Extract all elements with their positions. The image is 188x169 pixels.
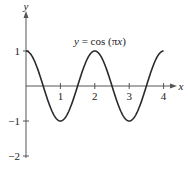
x-axis-arrow-icon — [170, 84, 177, 89]
y-tick-label: −2 — [8, 150, 20, 162]
chart-title: y = cos (πx) — [73, 35, 126, 48]
y-tick-label: −1 — [8, 115, 20, 127]
x-tick-label: 3 — [126, 90, 132, 102]
x-tick-label: 2 — [92, 90, 98, 102]
x-tick-label: 1 — [58, 90, 64, 102]
cosine-chart: 1 2 3 4 1 −1 −2 y x y = cos (πx) — [0, 0, 188, 169]
x-axis-label: x — [178, 80, 184, 92]
x-tick-label: 4 — [161, 90, 167, 102]
y-tick-label: 1 — [15, 45, 21, 57]
y-axis-label: y — [23, 0, 29, 12]
y-axis-arrow-icon — [24, 11, 29, 18]
